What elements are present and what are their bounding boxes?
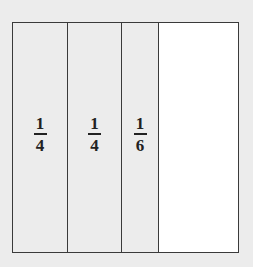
fraction-label: 1 4 xyxy=(34,115,47,154)
fraction-label: 1 6 xyxy=(134,115,147,154)
fraction-denominator: 4 xyxy=(36,135,45,154)
fraction-denominator: 4 xyxy=(90,135,99,154)
fraction-numerator: 1 xyxy=(35,115,46,133)
section-one-quarter-second: 1 4 xyxy=(68,23,122,252)
fraction-rectangle: 1 4 1 4 1 6 xyxy=(12,22,239,253)
fraction-label: 1 4 xyxy=(88,115,101,154)
fraction-numerator: 1 xyxy=(135,115,146,133)
fraction-denominator: 6 xyxy=(136,135,145,154)
fraction-numerator: 1 xyxy=(89,115,100,133)
section-one-sixth: 1 6 xyxy=(122,23,159,252)
section-one-quarter-first: 1 4 xyxy=(13,23,68,252)
section-remaining-unshaded xyxy=(159,23,238,252)
